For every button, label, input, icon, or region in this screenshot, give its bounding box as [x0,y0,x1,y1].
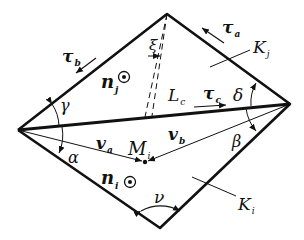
nj-label: nj [101,71,119,95]
alpha-label: α [68,148,79,167]
ni-label: ni [101,167,119,191]
delta-label: δ [233,85,243,105]
tau-a-label: τa [222,17,240,39]
tau-c-arrow [194,105,226,107]
cell-diagram: ξ τb τa τc Lc Kj Ki nj ni va vb Mi γ α δ… [0,0,304,240]
shared-edge-Lc [18,104,290,130]
Kj-leader [210,50,250,67]
diagram-canvas: ξ τb τa τc Lc Kj Ki nj ni va vb Mi γ α δ… [0,0,304,240]
beta-label: β [231,132,241,151]
nj-out-of-plane-icon [119,72,130,83]
ni-out-of-plane-icon [125,177,136,188]
Kj-label: Kj [252,37,270,59]
tau-c-label: τc [203,83,221,105]
va-label: va [96,133,113,155]
Ki-leader [192,177,236,196]
nu-label: ν [154,187,164,207]
vector-va [18,130,142,161]
tau-b-label: τb [62,46,81,68]
delta-arc [251,83,256,106]
vb-label: vb [168,124,185,146]
Ki-label: Ki [237,194,255,216]
gamma-arc [52,104,59,126]
Mi-label: Mi [127,138,150,161]
xi-label: ξ [149,36,158,54]
gamma-label: γ [60,96,70,115]
Lc-label: Lc [167,85,185,107]
